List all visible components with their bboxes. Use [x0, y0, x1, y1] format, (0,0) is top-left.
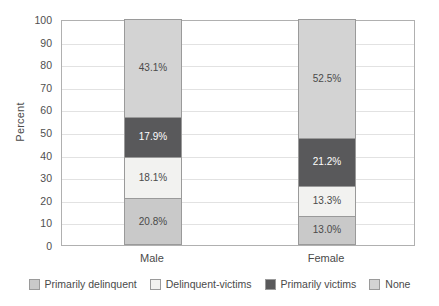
- legend-label: None: [385, 278, 410, 290]
- y-axis-tick-label: 90: [40, 37, 52, 49]
- legend-swatch-icon: [150, 279, 161, 290]
- y-axis-tick-label: 60: [40, 104, 52, 116]
- x-axis-tick-label: Male: [140, 252, 164, 264]
- y-axis-tick-label: 0: [46, 240, 52, 252]
- legend-label: Delinquent-victims: [166, 278, 252, 290]
- legend-swatch-icon: [369, 279, 380, 290]
- y-axis-tick-label: 100: [34, 14, 52, 26]
- legend-entry[interactable]: Primarily delinquent: [29, 278, 137, 290]
- legend-label: Primarily victims: [281, 278, 357, 290]
- y-axis-tick-label: 30: [40, 172, 52, 184]
- bar-segment: 43.1%: [124, 19, 182, 116]
- gridline: [62, 179, 414, 180]
- gridline: [62, 224, 414, 225]
- legend-entry[interactable]: Delinquent-victims: [150, 278, 252, 290]
- bar-segment-label: 13.3%: [313, 196, 341, 206]
- y-axis-tick-label: 50: [40, 127, 52, 139]
- gridline: [62, 111, 414, 112]
- legend-entry[interactable]: Primarily victims: [265, 278, 357, 290]
- plot-area: 20.8%18.1%17.9%43.1%13.0%13.3%21.2%52.5%: [61, 20, 415, 246]
- bar-segment-label: 20.8%: [139, 217, 167, 227]
- bar-segment: 13.3%: [298, 186, 356, 216]
- bar-segment: 13.0%: [298, 216, 356, 245]
- legend-label: Primarily delinquent: [45, 278, 137, 290]
- y-axis-tick-label: 20: [40, 195, 52, 207]
- bar-segment: 18.1%: [124, 157, 182, 198]
- gridlines: [62, 21, 414, 245]
- bar-segment-label: 17.9%: [139, 132, 167, 142]
- bar-segment-label: 18.1%: [139, 173, 167, 183]
- bar-group-female: 13.0%13.3%21.2%52.5%: [298, 19, 356, 245]
- y-axis-tick-label: 80: [40, 59, 52, 71]
- x-axis-tick-label: Female: [308, 252, 345, 264]
- bar-segment-label: 52.5%: [313, 74, 341, 84]
- y-axis-tick-label: 70: [40, 82, 52, 94]
- bar-segment-label: 43.1%: [139, 63, 167, 73]
- gridline: [62, 202, 414, 203]
- legend-entry[interactable]: None: [369, 278, 410, 290]
- bar-segment: 17.9%: [124, 117, 182, 157]
- y-axis-tick-label: 40: [40, 150, 52, 162]
- gridline: [62, 44, 414, 45]
- gridline: [62, 157, 414, 158]
- stacked-bar-chart: Percent 1009080706050403020100 20.8%18.1…: [0, 0, 439, 306]
- gridline: [62, 134, 414, 135]
- gridline: [62, 89, 414, 90]
- legend-swatch-icon: [29, 279, 40, 290]
- bar-segment: 20.8%: [124, 198, 182, 245]
- gridline: [62, 66, 414, 67]
- legend-swatch-icon: [265, 279, 276, 290]
- bar-segment: 21.2%: [298, 138, 356, 186]
- bar-group-male: 20.8%18.1%17.9%43.1%: [124, 19, 182, 245]
- bar-segment-label: 13.0%: [313, 225, 341, 235]
- bar-segment: 52.5%: [298, 19, 356, 138]
- y-axis-tick-label: 10: [40, 217, 52, 229]
- chart-legend: Primarily delinquentDelinquent-victimsPr…: [0, 278, 439, 290]
- bar-segment-label: 21.2%: [313, 157, 341, 167]
- y-axis-tick-labels: 1009080706050403020100: [0, 20, 56, 246]
